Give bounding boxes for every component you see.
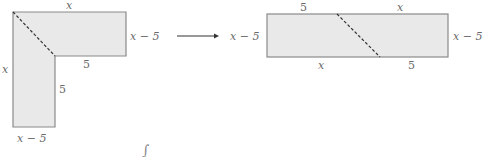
rect-label-bottom-left: x (318, 59, 325, 72)
rect-label-bottom-right: 5 (408, 59, 415, 72)
rect-label-top-left: 5 (300, 1, 307, 14)
l-label-inner-vertical: 5 (59, 83, 66, 96)
stray-mark: ∫ (142, 142, 149, 157)
rect-label-right: x − 5 (453, 30, 482, 43)
arrow-head-icon (214, 34, 219, 39)
diagram-canvas: x x − 5 5 x 5 x − 5 5 x x − 5 x − 5 x 5 … (0, 0, 484, 157)
l-label-bottom: x − 5 (17, 132, 46, 145)
rect-label-top-right: x (397, 1, 404, 14)
l-label-inner-horizontal: 5 (83, 58, 90, 71)
l-label-right: x − 5 (130, 30, 159, 43)
l-label-left: x (2, 63, 9, 76)
rectangle-outline (267, 14, 448, 57)
rectangle: 5 x x − 5 x − 5 x 5 (230, 1, 482, 72)
transform-arrow (177, 34, 219, 39)
l-shape: x x − 5 5 x 5 x − 5 (2, 0, 159, 145)
l-shape-outline (13, 12, 126, 127)
rect-label-left: x − 5 (230, 30, 259, 43)
l-label-top: x (66, 0, 73, 12)
